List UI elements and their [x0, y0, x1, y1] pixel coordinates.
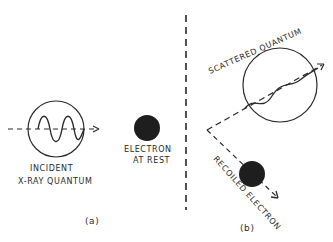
scattered-label: SCATTERED QUANTUM [207, 27, 303, 76]
electron-label-line2: AT REST [133, 156, 170, 165]
caption-b: (b) [240, 223, 255, 233]
electron-label-line1: ELECTRON [124, 145, 172, 154]
incident-label-line2: X-RAY QUANTUM [18, 177, 93, 186]
caption-a: (a) [85, 216, 99, 226]
electron-at-rest [134, 115, 160, 141]
compton-diagram: INCIDENT X-RAY QUANTUM ELECTRON AT REST … [0, 0, 333, 242]
incident-label-line1: INCIDENT [30, 164, 73, 173]
incident-quantum [8, 101, 99, 157]
